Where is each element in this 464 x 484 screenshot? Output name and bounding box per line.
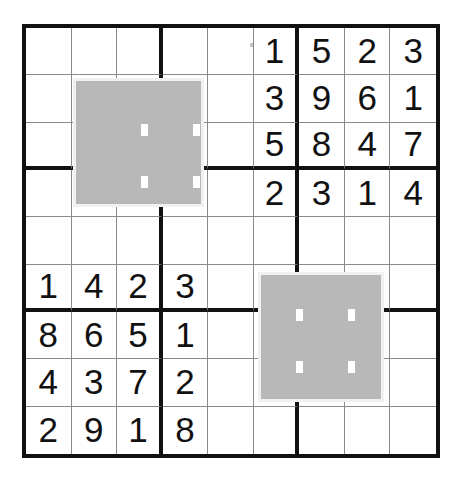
sudoku-cell-r9c4[interactable]: 8 [163,407,209,454]
sudoku-cell-r5c6[interactable] [254,217,300,264]
sudoku-puzzle-root: 15233961584723141423865143722918 [0,0,464,484]
sudoku-cell-r9c9[interactable] [390,407,436,454]
cell-digit: 5 [265,126,284,161]
sudoku-cell-r7c2[interactable]: 6 [72,312,118,359]
selection-bottom-right-handle-3[interactable] [348,309,355,321]
sudoku-cell-r3c9[interactable]: 7 [390,123,436,170]
sudoku-cell-r8c5[interactable] [208,359,254,406]
sudoku-cell-r5c3[interactable] [117,217,163,264]
sudoku-cell-r4c9[interactable]: 4 [390,170,436,217]
cell-digit: 5 [128,317,147,352]
sudoku-cell-r5c2[interactable] [72,217,118,264]
sudoku-cell-r4c5[interactable] [208,170,254,217]
cell-digit: 6 [84,317,103,352]
sudoku-cell-r1c2[interactable] [72,28,118,75]
sudoku-cell-r8c9[interactable] [390,359,436,406]
cell-digit: 8 [312,126,331,161]
cell-digit: 2 [357,33,376,68]
sudoku-cell-r8c3[interactable]: 7 [117,359,163,406]
sudoku-cell-r9c1[interactable]: 2 [26,407,72,454]
cell-digit: 2 [175,364,194,399]
sudoku-cell-r6c3[interactable]: 2 [117,265,163,312]
sudoku-cell-r9c3[interactable]: 1 [117,407,163,454]
cell-digit: 1 [403,80,422,115]
sudoku-cell-r9c2[interactable]: 9 [72,407,118,454]
cell-digit: 8 [39,317,58,352]
sudoku-cell-r1c5[interactable] [208,28,254,75]
cell-digit: 1 [357,175,376,210]
cell-digit: 1 [39,268,58,303]
cell-digit: 7 [128,364,147,399]
cell-digit: 4 [357,126,376,161]
selection-top-left-handle-3[interactable] [193,124,200,136]
cell-digit: 1 [128,412,147,447]
sudoku-cell-r6c2[interactable]: 4 [72,265,118,312]
selection-bottom-right-handle-2[interactable] [296,361,303,373]
sudoku-cell-r9c6[interactable] [254,407,300,454]
sudoku-cell-r7c1[interactable]: 8 [26,312,72,359]
sudoku-cell-r1c8[interactable]: 2 [345,28,391,75]
sudoku-cell-r5c7[interactable] [299,217,345,264]
cell-digit: 1 [265,33,284,68]
sudoku-cell-r1c7[interactable]: 5 [299,28,345,75]
sudoku-cell-r6c5[interactable] [208,265,254,312]
selection-bottom-right[interactable] [258,272,384,402]
sudoku-cell-r2c6[interactable]: 3 [254,75,300,122]
sudoku-cell-r7c3[interactable]: 5 [117,312,163,359]
cell-digit: 7 [403,126,422,161]
cell-digit: 3 [175,268,194,303]
sudoku-cell-r3c8[interactable]: 4 [345,123,391,170]
sudoku-cell-r3c6[interactable]: 5 [254,123,300,170]
sudoku-cell-r4c6[interactable]: 2 [254,170,300,217]
sudoku-cell-r8c4[interactable]: 2 [163,359,209,406]
selection-bottom-right-handle-4[interactable] [348,361,355,373]
cell-digit: 3 [312,175,331,210]
selection-top-left-handle-1[interactable] [141,124,148,136]
sudoku-cell-r6c4[interactable]: 3 [163,265,209,312]
selection-top-left[interactable] [73,78,204,207]
sudoku-cell-r7c9[interactable] [390,312,436,359]
sudoku-cell-r9c5[interactable] [208,407,254,454]
sudoku-cell-r5c8[interactable] [345,217,391,264]
sudoku-cell-r5c1[interactable] [26,217,72,264]
sudoku-cell-r4c8[interactable]: 1 [345,170,391,217]
sudoku-cell-r7c4[interactable]: 1 [163,312,209,359]
cell-digit: 3 [403,33,422,68]
sudoku-cell-r3c7[interactable]: 8 [299,123,345,170]
sudoku-cell-r3c5[interactable] [208,123,254,170]
sudoku-cell-r8c2[interactable]: 3 [72,359,118,406]
sudoku-cell-r2c9[interactable]: 1 [390,75,436,122]
sudoku-cell-r5c4[interactable] [163,217,209,264]
sudoku-cell-r5c5[interactable] [208,217,254,264]
cell-digit: 4 [403,175,422,210]
selection-top-left-handle-4[interactable] [193,176,200,188]
sudoku-cell-r1c6[interactable]: 1 [254,28,300,75]
selection-top-left-handle-2[interactable] [141,176,148,188]
sudoku-cell-r2c1[interactable] [26,75,72,122]
sudoku-cell-r2c7[interactable]: 9 [299,75,345,122]
sudoku-cell-r6c9[interactable] [390,265,436,312]
sudoku-cell-r9c8[interactable] [345,407,391,454]
sudoku-cell-r3c1[interactable] [26,123,72,170]
cell-digit: 8 [175,412,194,447]
cell-digit: 3 [265,80,284,115]
sudoku-cell-r8c1[interactable]: 4 [26,359,72,406]
cell-digit: 4 [39,364,58,399]
sudoku-cell-r4c1[interactable] [26,170,72,217]
sudoku-cell-r5c9[interactable] [390,217,436,264]
sudoku-cell-r2c5[interactable] [208,75,254,122]
sudoku-cell-r1c9[interactable]: 3 [390,28,436,75]
sudoku-cell-r6c1[interactable]: 1 [26,265,72,312]
cell-digit: 6 [357,80,376,115]
sudoku-cell-r2c8[interactable]: 6 [345,75,391,122]
cell-digit: 9 [312,80,331,115]
sudoku-cell-r1c4[interactable] [163,28,209,75]
sudoku-cell-r1c1[interactable] [26,28,72,75]
sudoku-cell-r4c7[interactable]: 3 [299,170,345,217]
sudoku-cell-r9c7[interactable] [299,407,345,454]
sudoku-cell-r7c5[interactable] [208,312,254,359]
cell-digit: 3 [84,364,103,399]
sudoku-cell-r1c3[interactable] [117,28,163,75]
cell-digit: 2 [265,175,284,210]
selection-bottom-right-handle-1[interactable] [296,309,303,321]
